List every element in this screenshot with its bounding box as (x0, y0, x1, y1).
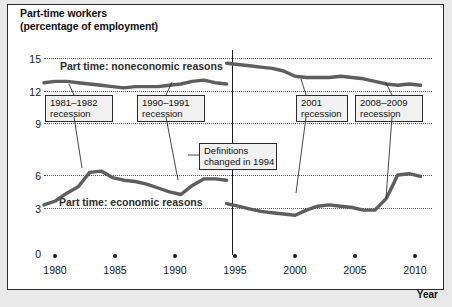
gridline-12 (44, 91, 432, 92)
chart-title-line2: (percentage of employment) (20, 20, 158, 33)
gridline-15 (44, 58, 432, 59)
y-tick-3: 3 (19, 203, 41, 215)
callout-line2: recession (142, 108, 200, 119)
y-tick-12: 12 (19, 86, 41, 98)
x-tick-dot-1985 (113, 254, 117, 258)
callout-recession-2008-2009: 2008–2009 recession (355, 95, 423, 122)
x-tick-2000: 2000 (275, 264, 315, 276)
chart-figure: Part-time workers (percentage of employm… (0, 0, 452, 307)
x-tick-dot-2010 (413, 254, 417, 258)
callout-recession-2001: 2001 recession (296, 95, 348, 122)
series-label-economic: Part time: economic reasons (59, 196, 203, 208)
y-tick-9: 9 (19, 118, 41, 130)
x-tick-1980: 1980 (35, 264, 75, 276)
x-tick-2010: 2010 (395, 264, 435, 276)
callout-line1: 1990–1991 (142, 97, 200, 108)
callout-definitions-changed: Definitions changed in 1994 (199, 143, 277, 170)
x-tick-dot-1980 (53, 254, 57, 258)
chart-title-line1: Part-time workers (20, 7, 158, 20)
callout-line2: recession (360, 108, 418, 119)
y-tick-15: 15 (19, 53, 41, 65)
gridline-9 (44, 123, 432, 124)
x-axis-title: Year (417, 289, 438, 300)
x-tick-dot-1995 (233, 254, 237, 258)
x-tick-1990: 1990 (155, 264, 195, 276)
gridline-3 (44, 208, 432, 209)
callout-line1: Definitions (204, 145, 272, 156)
callout-line1: 2001 (301, 97, 343, 108)
x-tick-dot-1990 (173, 254, 177, 258)
x-tick-1985: 1985 (95, 264, 135, 276)
callout-recession-1990-1991: 1990–1991 recession (137, 95, 205, 122)
y-tick-0: 0 (19, 248, 41, 260)
callout-line2: changed in 1994 (204, 156, 272, 167)
callout-line2: recession (50, 108, 108, 119)
callout-recession-1981-1982: 1981–1982 recession (45, 95, 113, 122)
callout-line1: 1981–1982 (50, 97, 108, 108)
x-tick-dot-2005 (353, 254, 357, 258)
callout-line2: recession (301, 108, 343, 119)
series-label-noneconomic: Part time: noneconomic reasons (60, 60, 223, 72)
callout-line1: 2008–2009 (360, 97, 418, 108)
page-title: Part-time workers (percentage of employm… (20, 7, 158, 33)
x-tick-dot-2000 (293, 254, 297, 258)
x-tick-2005: 2005 (335, 264, 375, 276)
gridline-6 (44, 175, 432, 176)
y-tick-6: 6 (19, 170, 41, 182)
x-tick-1995: 1995 (215, 264, 255, 276)
